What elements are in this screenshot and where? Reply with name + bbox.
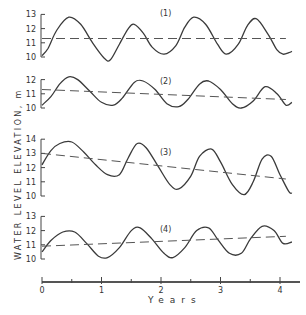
panel-label: (1) bbox=[160, 9, 171, 18]
x-axis-label: Years bbox=[147, 295, 202, 305]
panel-2: 101112(2) bbox=[26, 76, 292, 113]
y-tick-label: 13 bbox=[26, 212, 36, 221]
y-tick-label: 11 bbox=[26, 178, 36, 187]
y-tick-label: 10 bbox=[26, 255, 36, 264]
panel-4: 10111213(4) bbox=[26, 212, 292, 264]
water-level-curve bbox=[42, 17, 292, 61]
y-tick-label: 12 bbox=[26, 164, 36, 173]
panels: 10111213(1)101112(2)1011121314(3)1011121… bbox=[26, 9, 292, 264]
y-tick-label: 11 bbox=[26, 39, 36, 48]
y-tick-label: 11 bbox=[26, 90, 36, 99]
x-tick-label: 3 bbox=[218, 286, 223, 295]
y-axis-label: WATER LEVEL ELEVATION, m bbox=[14, 88, 23, 260]
panel-label: (2) bbox=[160, 77, 171, 86]
y-tick-label: 10 bbox=[26, 53, 36, 62]
x-tick-label: 2 bbox=[158, 286, 163, 295]
y-tick-label: 12 bbox=[26, 76, 36, 85]
y-tick-label: 12 bbox=[26, 227, 36, 236]
y-tick-label: 11 bbox=[26, 241, 36, 250]
x-tick-label: 4 bbox=[277, 286, 282, 295]
panel-1: 10111213(1) bbox=[26, 9, 292, 62]
x-axis: 01234 bbox=[39, 277, 300, 295]
x-tick-label: 1 bbox=[99, 286, 104, 295]
x-tick-label: 0 bbox=[39, 286, 44, 295]
y-tick-label: 14 bbox=[26, 135, 36, 144]
y-tick-label: 10 bbox=[26, 192, 36, 201]
panel-3: 1011121314(3) bbox=[26, 135, 292, 201]
y-tick-label: 13 bbox=[26, 10, 36, 19]
y-tick-label: 13 bbox=[26, 149, 36, 158]
water-level-chart: 10111213(1)101112(2)1011121314(3)1011121… bbox=[0, 0, 306, 315]
panel-label: (3) bbox=[160, 148, 171, 157]
y-tick-label: 10 bbox=[26, 104, 36, 113]
trend-line bbox=[42, 90, 286, 100]
y-tick-label: 12 bbox=[26, 25, 36, 34]
panel-label: (4) bbox=[160, 225, 171, 234]
